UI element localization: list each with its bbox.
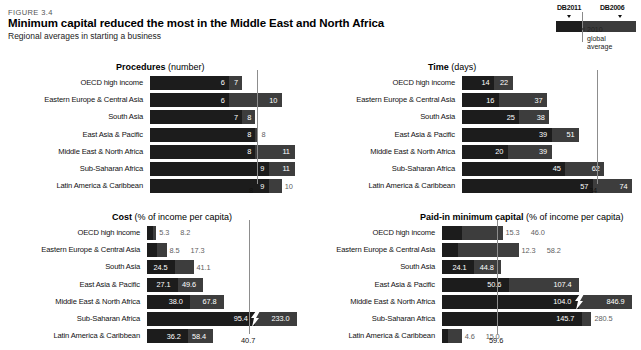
bar-track: 24.541.1: [147, 260, 297, 274]
value-label-db2006: 11: [282, 164, 289, 173]
value-label-db2011: 8: [247, 147, 251, 156]
value-label-db2011: 24.5: [154, 263, 168, 272]
value-label-db2011: 27.1: [156, 280, 170, 289]
reference-line-label: 59.6: [489, 336, 503, 345]
value-label-db2011: 8: [247, 130, 251, 139]
chart-row: East Asia & Pacific50.6107.4: [320, 278, 641, 292]
bar-segment-db2011: [150, 145, 255, 159]
chart-row: Eastern Europe & Central Asia12.358.2: [320, 243, 641, 257]
bar-track: 24.144.8: [442, 260, 632, 274]
category-label: Sub-Saharan Africa: [320, 164, 455, 173]
chart-row: Middle East & North Africa104.0846.9: [320, 295, 641, 309]
value-label-db2006: 49.6: [182, 280, 196, 289]
chart-row: Middle East & North Africa811: [0, 145, 320, 159]
value-label-db2006: 280.5: [594, 314, 612, 323]
bar-track: 67: [150, 76, 295, 90]
value-label-db2006: 44.8: [480, 263, 494, 272]
bar-track: 911: [150, 162, 295, 176]
category-label: East Asia & Pacific: [0, 280, 140, 289]
bar-track: 811: [150, 145, 295, 159]
value-label-db2011: 9: [260, 164, 264, 173]
category-label: OECD high income: [0, 78, 143, 87]
reference-line: [597, 70, 598, 184]
value-label-db2006: 74: [619, 182, 627, 191]
legend-global-average-note: 2010 global average: [587, 26, 612, 52]
bar-track: 38.067.8: [147, 295, 297, 309]
value-label-db2011: 9: [260, 182, 264, 191]
bar-segment-db2011: [150, 110, 242, 124]
value-label-db2006: 39: [539, 147, 547, 156]
legend-arrow-icon: [581, 27, 585, 31]
legend-pointer-db2006-icon: [618, 15, 622, 18]
value-label-db2011: 6: [221, 78, 225, 87]
chart-row: South Asia2538: [320, 110, 641, 124]
value-label-db2011: 95.4: [234, 314, 248, 323]
value-label-db2011: 57: [580, 182, 588, 191]
value-label-db2011: 14: [482, 78, 490, 87]
bar-track: 1422: [462, 76, 632, 90]
chart-row: OECD high income1422: [320, 76, 641, 90]
category-label: East Asia & Pacific: [0, 130, 143, 139]
chart-panel-4: Paid-in minimum capital (% of income per…: [320, 212, 641, 350]
category-label: South Asia: [0, 112, 143, 121]
chart-row: OECD high income15.346.0: [320, 226, 641, 240]
category-label: Eastern Europe & Central Asia: [320, 95, 455, 104]
value-label-db2006: 37: [534, 96, 542, 105]
category-label: Latin America & Caribbean: [0, 181, 143, 190]
value-label-db2006: 41.1: [197, 263, 211, 272]
reference-line-label: 34: [589, 186, 597, 195]
value-label-db2006: 22: [500, 78, 508, 87]
chart-row: Sub-Saharan Africa95.4233.0: [0, 312, 320, 326]
chart-row: Middle East & North Africa2039: [320, 145, 641, 159]
bar-track: 95.4233.0: [147, 312, 297, 326]
chart-row: Eastern Europe & Central Asia610: [0, 93, 320, 107]
value-label-db2011: 145.7: [556, 314, 574, 323]
panel-title-unit: (% of income per capita): [524, 212, 624, 222]
legend-note-line-2: global: [587, 35, 612, 44]
legend: DB2011 DB2006 2010 global average: [556, 4, 641, 70]
category-label: Latin America & Caribbean: [320, 331, 435, 340]
value-label-db2006: 10: [269, 96, 277, 105]
legend-pointer-db2011-icon: [567, 15, 571, 18]
value-label-db2006: 846.9: [607, 297, 625, 306]
value-label-db2011: 6: [221, 96, 225, 105]
bar-track: 104.0846.9: [442, 295, 632, 309]
chart-panel-3: Cost (% of income per capita)OECD high i…: [0, 212, 320, 350]
category-label: South Asia: [320, 112, 455, 121]
category-label: OECD high income: [320, 78, 455, 87]
value-label-db2006: 10: [285, 182, 293, 191]
category-label: East Asia & Pacific: [320, 130, 455, 139]
category-label: Eastern Europe & Central Asia: [320, 245, 435, 254]
chart-row: Eastern Europe & Central Asia1637: [320, 93, 641, 107]
figure-subtitle: Regional averages in starting a business: [8, 31, 161, 41]
value-label-db2011: 50.6: [487, 280, 501, 289]
panel-title-unit: (days): [449, 62, 477, 72]
bar-segment-db2011: [150, 128, 255, 142]
category-label: Sub-Saharan Africa: [320, 314, 435, 323]
bar-track: 5774: [462, 179, 632, 193]
bar-segment-db2011: [147, 226, 153, 240]
category-label: South Asia: [320, 262, 435, 271]
bar-track: 3951: [462, 128, 632, 142]
value-label-db2006: 46.0: [531, 228, 545, 237]
bar-track: 910: [150, 179, 295, 193]
reference-line: [497, 220, 498, 334]
value-label-db2006: 8: [261, 130, 265, 139]
panel-title-name: Paid-in minimum capital: [420, 212, 524, 222]
value-label-db2006: 38: [537, 113, 545, 122]
panel-rows: OECD high income15.346.0Eastern Europe &…: [320, 226, 641, 346]
legend-label-db2011: DB2011: [557, 4, 581, 11]
reference-line-label: 8: [249, 186, 253, 195]
bar-track: 5.38.2: [147, 226, 297, 240]
legend-note-line-1: 2010: [587, 26, 612, 35]
bar-track: 2538: [462, 110, 632, 124]
category-label: OECD high income: [320, 228, 435, 237]
bar-track: 1637: [462, 93, 632, 107]
value-label-db2011: 7: [234, 113, 238, 122]
value-label-db2006: 107.4: [554, 280, 572, 289]
category-label: Latin America & Caribbean: [0, 331, 140, 340]
chart-row: Latin America & Caribbean910: [0, 179, 320, 193]
value-label-db2011: 36.2: [167, 332, 181, 341]
chart-row: Sub-Saharan Africa911: [0, 162, 320, 176]
axis-break-icon: [574, 294, 585, 310]
